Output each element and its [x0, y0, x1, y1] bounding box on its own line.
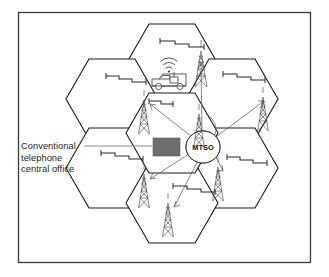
van-roof-box — [170, 77, 178, 83]
mtso-node: MTSO — [186, 130, 220, 164]
caption-line-2: telephone — [21, 153, 95, 165]
caption-line-1: Conventional — [21, 141, 95, 153]
central-office-building — [153, 138, 180, 156]
van-rear-wheel — [177, 83, 183, 89]
cellular-network-figure: MTSO — [0, 0, 329, 277]
caption-line-3: central office — [21, 164, 95, 176]
van-front-wheel — [155, 83, 161, 89]
mtso-label: MTSO — [192, 143, 214, 152]
network-diagram-canvas: MTSO — [0, 0, 329, 277]
cell-grid — [66, 24, 278, 243]
central-office-caption: Conventional telephone central office — [21, 141, 95, 176]
